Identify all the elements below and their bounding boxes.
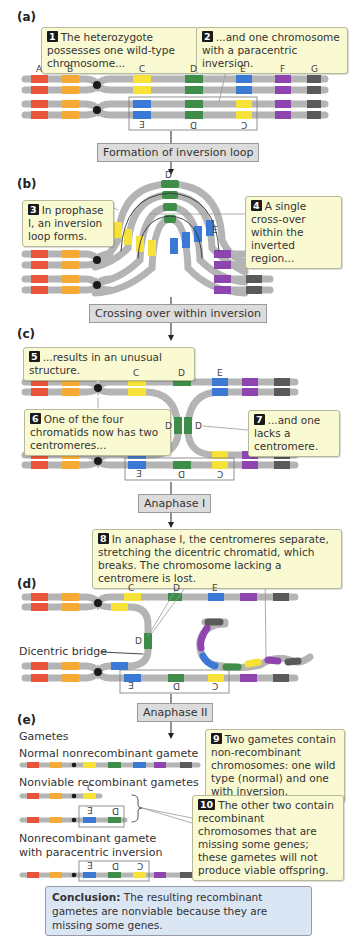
c-inverted-d: D — [178, 469, 185, 479]
d-label-d: D — [173, 583, 180, 593]
loop-label-e: E — [212, 225, 218, 235]
c-inverted-e: E — [136, 469, 142, 479]
loop-label-d: D — [165, 170, 172, 180]
gene-label-g: G — [311, 64, 318, 74]
step-number-10: 10 — [198, 799, 215, 810]
step-number-7: 7 — [254, 414, 265, 425]
step-number-4: 4 — [251, 200, 262, 211]
callout-6-text: One of the four chromatids now has two c… — [30, 413, 158, 451]
e-inverted-e-2: E — [87, 861, 93, 871]
inverted-label-d: D — [190, 120, 197, 130]
callout-2: 2...and one chromosome with a paracentri… — [196, 27, 348, 74]
d-inverted-d: D — [173, 681, 180, 691]
panel-label-b: (b) — [17, 177, 37, 191]
callout-1: 1The heterozygote possesses one wild-typ… — [41, 27, 198, 74]
nonviable-gametes-label: Nonviable recombinant gametes — [19, 776, 199, 789]
d-inverted-e: E — [128, 681, 134, 691]
gene-label-c: C — [139, 64, 145, 74]
c-label-d-left: D — [165, 421, 172, 431]
callout-10-text: The other two contain recombinant chromo… — [198, 799, 334, 876]
inversion-gamete-label-2: with paracentric inversion — [19, 846, 162, 859]
normal-gamete-label: Normal nonrecombinant gamete — [19, 747, 198, 760]
panel-label-e: (e) — [17, 713, 36, 727]
step-formation-inversion-loop: Formation of inversion loop — [97, 143, 259, 162]
panel-label-c: (c) — [17, 327, 35, 341]
d-label-d-bridge: D — [135, 636, 142, 646]
gene-label-d: D — [190, 64, 197, 74]
d-label-e: E — [212, 583, 218, 593]
callout-8: 8In anaphase I, the centromeres separate… — [92, 529, 342, 589]
conclusion-box: Conclusion: The resulting recombinant ga… — [45, 886, 312, 936]
callout-2-text: ...and one chromosome with a paracentric… — [202, 31, 340, 69]
c-label-c: C — [133, 368, 139, 378]
callout-5-text: ...results in an unusual structure. — [29, 351, 162, 376]
callout-3-text: In prophase I, an inversion loop forms. — [28, 204, 104, 242]
step-number-2: 2 — [202, 31, 213, 42]
step-anaphase-2: Anaphase II — [137, 703, 213, 722]
callout-5: 5...results in an unusual structure. — [23, 347, 195, 381]
dicentric-bridge-label: Dicentric bridge — [19, 645, 107, 658]
conclusion-label: Conclusion: — [52, 891, 120, 903]
e-inverted-d-2: D — [112, 861, 119, 871]
e-label-c: C — [87, 783, 93, 793]
callout-7: 7...and one lacks a centromere. — [248, 410, 340, 457]
callout-8-text: In anaphase I, the centromeres separate,… — [98, 533, 329, 584]
step-number-1: 1 — [47, 31, 58, 42]
gene-label-b: B — [67, 64, 73, 74]
gametes-heading: Gametes — [19, 730, 69, 743]
panel-d-chromosomes — [25, 573, 310, 693]
step-number-8: 8 — [98, 533, 109, 544]
step-crossing-over: Crossing over within inversion — [89, 304, 267, 323]
inversion-gamete-label-1: Nonrecombinant gamete — [19, 832, 156, 845]
callout-9-text: Two gametes contain non-recombinant chro… — [211, 733, 336, 797]
gene-label-f: F — [280, 64, 285, 74]
callout-10: 10The other two contain recombinant chro… — [192, 795, 344, 881]
inverted-label-c: C — [241, 120, 247, 130]
step-number-3: 3 — [28, 204, 39, 215]
e-inverted-c-2: C — [137, 861, 143, 871]
c-label-d: D — [178, 368, 185, 378]
callout-9: 9Two gametes contain non-recombinant chr… — [205, 729, 345, 802]
panel-label-a: (a) — [17, 10, 36, 24]
callout-6: 6One of the four chromatids now has two … — [24, 409, 171, 456]
gene-label-e: E — [240, 64, 246, 74]
gene-label-a: A — [36, 64, 42, 74]
step-number-5: 5 — [29, 351, 40, 362]
callout-3: 3In prophase I, an inversion loop forms. — [22, 200, 114, 247]
step-anaphase-1: Anaphase I — [138, 494, 211, 513]
c-inverted-c: C — [217, 469, 223, 479]
callout-4: 4A single cross-over within the inverted… — [245, 196, 342, 269]
d-label-c: C — [128, 583, 134, 593]
panel-label-d: (d) — [17, 577, 37, 591]
d-inverted-c: C — [212, 681, 218, 691]
c-label-d-right: D — [195, 421, 202, 431]
step-number-6: 6 — [30, 413, 41, 424]
c-label-e: E — [217, 368, 223, 378]
step-number-9: 9 — [211, 733, 222, 744]
e-inverted-e-1: E — [87, 806, 93, 816]
e-inverted-d-1: D — [112, 806, 119, 816]
inverted-label-e: E — [139, 120, 145, 130]
